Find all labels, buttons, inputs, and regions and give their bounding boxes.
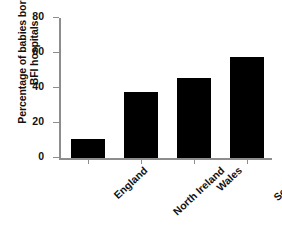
bar (230, 57, 264, 158)
x-axis-line (59, 158, 272, 160)
y-axis-tick-label: 0 (38, 150, 44, 162)
x-axis-label: England (111, 164, 149, 201)
x-axis-label: North Ireland (170, 164, 226, 217)
y-axis-tick-label: 60 (32, 45, 44, 57)
y-axis-tick: 0 (53, 157, 59, 158)
x-axis-label: Scotland (271, 164, 282, 203)
bar (71, 139, 105, 158)
bar (177, 78, 211, 159)
y-axis-title-line-1: Percentage of babies born in (16, 0, 28, 124)
y-axis-line (59, 18, 61, 159)
y-axis-tick: 80 (53, 17, 59, 18)
y-axis-tick-label: 20 (32, 115, 44, 127)
y-axis-tick-label: 80 (32, 10, 44, 22)
bar (124, 92, 158, 158)
x-axis-labels: EnglandNorth IrelandWalesScotland (59, 164, 272, 224)
y-axis-tick: 40 (53, 87, 59, 88)
y-axis-tick-label: 40 (32, 80, 44, 92)
y-axis-tick: 20 (53, 122, 59, 123)
y-axis-tick: 60 (53, 52, 59, 53)
bar-chart: Percentage of babies born in BFI hospita… (0, 0, 282, 233)
plot-area: 020406080 (59, 18, 272, 158)
